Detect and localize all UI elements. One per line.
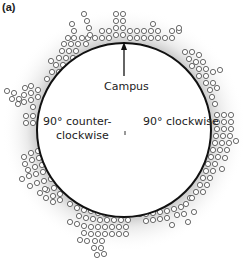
- heading-dot: [30, 104, 35, 109]
- heading-dot: [29, 157, 34, 162]
- heading-dot: [109, 231, 114, 236]
- heading-dot: [92, 238, 97, 243]
- heading-dot: [88, 224, 93, 229]
- panel-label: (a): [2, 1, 15, 13]
- heading-dot: [134, 28, 139, 33]
- heading-dot: [134, 35, 139, 40]
- heading-dot: [99, 28, 104, 33]
- heading-dot: [164, 208, 169, 213]
- heading-dot: [150, 21, 155, 26]
- heading-dot: [191, 209, 196, 214]
- heading-dot: [83, 215, 88, 220]
- heading-dot: [51, 185, 56, 190]
- heading-dot: [76, 213, 81, 218]
- heading-dot: [99, 238, 104, 243]
- heading-dot: [226, 140, 231, 145]
- heading-dot: [207, 87, 212, 92]
- campus-label: Campus: [104, 80, 149, 93]
- heading-dot: [233, 138, 238, 143]
- heading-dot: [63, 55, 68, 60]
- heading-dot: [83, 41, 88, 46]
- heading-dot: [74, 221, 79, 226]
- heading-dot: [221, 119, 226, 124]
- heading-dot: [67, 201, 72, 206]
- heading-dot: [35, 94, 40, 99]
- heading-dot: [204, 182, 209, 187]
- heading-dot: [174, 212, 179, 217]
- heading-dot: [209, 94, 214, 99]
- heading-dot: [102, 231, 107, 236]
- heading-dot: [65, 35, 70, 40]
- heading-dot: [224, 147, 229, 152]
- heading-dot: [35, 87, 40, 92]
- heading-dot: [95, 224, 100, 229]
- heading-dot: [210, 69, 215, 74]
- heading-dot: [217, 147, 222, 152]
- heading-dot: [228, 119, 233, 124]
- heading-dot: [210, 147, 215, 152]
- heading-dot: [16, 96, 21, 101]
- heading-dot: [155, 28, 160, 33]
- heading-dot: [4, 88, 9, 93]
- heading-dot: [123, 231, 128, 236]
- heading-dot: [102, 224, 107, 229]
- heading-dot: [116, 224, 121, 229]
- heading-dot: [92, 35, 97, 40]
- heading-dot: [42, 186, 47, 191]
- heading-dot: [56, 55, 61, 60]
- heading-dot: [196, 52, 201, 57]
- heading-dot: [214, 85, 219, 90]
- heading-dot: [81, 223, 86, 228]
- heading-dot: [69, 21, 74, 26]
- heading-dot: [219, 140, 224, 145]
- heading-dot: [73, 48, 78, 53]
- heading-dot: [162, 35, 167, 40]
- heading-dot: [116, 231, 121, 236]
- heading-dot: [71, 35, 76, 40]
- heading-dot: [104, 217, 109, 222]
- heading-dot: [111, 217, 116, 222]
- heading-dot: [217, 67, 222, 72]
- heading-dot: [84, 238, 89, 243]
- heading-dot: [49, 69, 54, 74]
- heading-dot: [120, 18, 125, 23]
- heading-dot: [61, 41, 66, 46]
- heading-dot: [97, 217, 102, 222]
- heading-dot: [208, 154, 213, 159]
- heading-dot: [33, 171, 38, 176]
- heading-dot: [157, 216, 162, 221]
- heading-dot: [210, 168, 215, 173]
- heading-dot: [106, 35, 111, 40]
- heading-dot: [228, 126, 233, 131]
- heading-dot: [22, 161, 27, 166]
- heading-dot: [50, 199, 55, 204]
- heading-dot: [50, 193, 55, 198]
- heading-dot: [181, 211, 186, 216]
- heading-dot: [43, 195, 48, 200]
- heading-dot: [196, 66, 201, 71]
- heading-dot: [67, 219, 72, 224]
- heading-dot: [212, 161, 217, 166]
- heading-dot: [212, 140, 217, 145]
- heading-dot: [155, 35, 160, 40]
- heading-dot: [11, 90, 16, 95]
- heading-dot: [22, 85, 27, 90]
- heading-dot: [23, 113, 28, 118]
- heading-dot: [66, 48, 71, 53]
- heading-dot: [127, 28, 132, 33]
- orientation-diagram: [0, 0, 243, 259]
- heading-dot: [41, 178, 46, 183]
- heading-dot: [34, 180, 39, 185]
- heading-dot: [15, 101, 20, 106]
- heading-dot: [98, 245, 103, 250]
- heading-dot: [169, 222, 174, 227]
- heading-dot: [120, 11, 125, 16]
- heading-dot: [21, 92, 26, 97]
- heading-dot: [183, 201, 188, 206]
- heading-dot: [148, 35, 153, 40]
- heading-dot: [215, 154, 220, 159]
- heading-dot: [127, 35, 132, 40]
- heading-dot: [21, 99, 26, 104]
- heading-dot: [95, 231, 100, 236]
- heading-dot: [203, 168, 208, 173]
